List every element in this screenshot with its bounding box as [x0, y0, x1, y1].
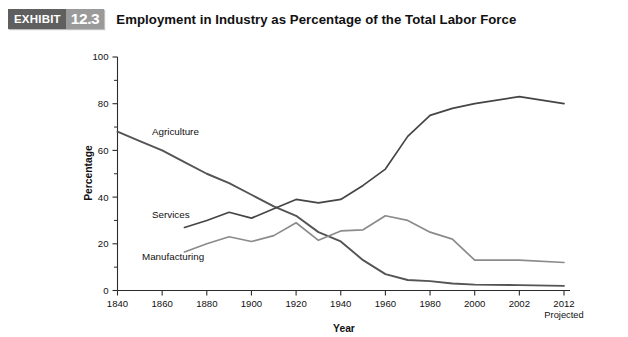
y-axis-tick-labels: 020406080100 — [92, 51, 108, 296]
x-tick-label: 1920 — [285, 298, 306, 309]
x-axis-projected-sublabel: Projected — [544, 310, 583, 320]
y-tick-label: 0 — [103, 285, 108, 296]
x-tick-label: 1980 — [419, 298, 440, 309]
x-tick-label: 1940 — [330, 298, 351, 309]
y-tick-label: 100 — [92, 51, 108, 62]
series-line-manufacturing — [184, 216, 564, 263]
x-tick-label: 2000 — [464, 298, 485, 309]
exhibit-badge-number: 12.3 — [66, 9, 105, 29]
x-tick-label: 1840 — [107, 298, 128, 309]
x-axis: 1840186018801900192019401960198020002002… — [107, 291, 584, 335]
series-label-agriculture: Agriculture — [152, 126, 199, 137]
y-axis-ticks — [113, 57, 118, 291]
y-tick-label: 20 — [98, 238, 109, 249]
series-label-services: Services — [152, 209, 190, 220]
exhibit-figure: EXHIBIT 12.3 Employment in Industry as P… — [0, 0, 628, 337]
chart-area: 020406080100 Percentage 1840186018801900… — [0, 40, 628, 337]
y-axis-title: Percentage — [83, 145, 94, 201]
x-axis-ticks — [118, 291, 565, 296]
y-tick-label: 60 — [98, 145, 109, 156]
y-tick-label: 40 — [98, 192, 109, 203]
x-tick-label: 2002 — [509, 298, 530, 309]
x-tick-label: 1860 — [151, 298, 172, 309]
line-chart: 020406080100 Percentage 1840186018801900… — [0, 40, 628, 337]
exhibit-badge-word: EXHIBIT — [8, 9, 66, 29]
x-tick-label: 1960 — [375, 298, 396, 309]
series-line-services — [184, 97, 564, 228]
figure-header: EXHIBIT 12.3 Employment in Industry as P… — [8, 9, 516, 29]
y-tick-label: 80 — [98, 98, 109, 109]
series-label-manufacturing: Manufacturing — [142, 251, 204, 262]
x-axis-tick-labels: 1840186018801900192019401960198020002002… — [107, 298, 575, 309]
x-tick-label: 1900 — [241, 298, 262, 309]
x-tick-label: 2012 — [553, 298, 574, 309]
x-axis-title: Year — [333, 323, 355, 334]
exhibit-badge: EXHIBIT 12.3 — [8, 9, 104, 29]
y-axis: 020406080100 Percentage — [83, 51, 118, 296]
figure-title: Employment in Industry as Percentage of … — [116, 12, 516, 27]
x-tick-label: 1880 — [196, 298, 217, 309]
